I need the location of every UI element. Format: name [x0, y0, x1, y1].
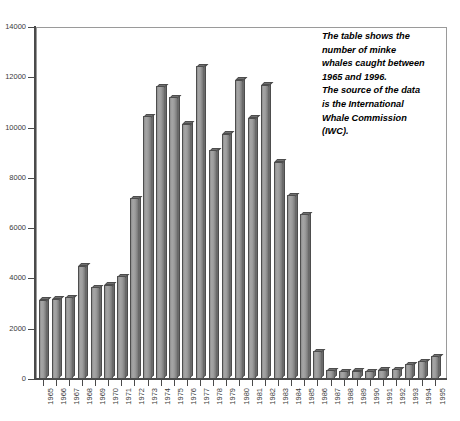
bar	[156, 86, 165, 379]
bar	[91, 287, 100, 379]
x-axis-label: 1979	[229, 388, 237, 405]
x-axis-label: 1971	[125, 388, 133, 405]
x-axis-tick	[252, 379, 253, 386]
bar-slot	[168, 27, 181, 379]
x-axis-label: 1976	[190, 388, 198, 405]
x-axis-label: 1980	[243, 388, 251, 405]
bar-slot	[142, 27, 155, 379]
x-axis-tick	[357, 379, 358, 386]
bar	[169, 97, 178, 379]
minke-whale-catch-bar-chart: 02000400060008000100001200014000 1965196…	[0, 0, 460, 421]
x-axis-label: 1986	[321, 388, 329, 405]
x-axis-label: 1967	[73, 388, 81, 405]
x-axis-tick	[383, 379, 384, 386]
y-axis-tick	[28, 278, 35, 279]
x-axis-label: 1978	[216, 388, 224, 405]
bar	[130, 198, 139, 379]
bar	[235, 80, 244, 379]
x-axis-label: 1981	[256, 388, 264, 405]
annotation-line: The source of the data	[322, 84, 450, 98]
x-axis-label: 1974	[164, 388, 172, 405]
bar-slot	[194, 27, 207, 379]
x-axis-tick	[69, 379, 70, 386]
bar	[222, 134, 231, 379]
annotation-line: is the International	[322, 98, 450, 112]
x-axis-label: 1983	[282, 388, 290, 405]
bar	[300, 214, 309, 379]
bar	[339, 371, 348, 379]
annotation-line: Whale Commission	[322, 112, 450, 126]
bar-slot	[129, 27, 142, 379]
x-axis-tick	[422, 379, 423, 386]
bar-slot	[64, 27, 77, 379]
chart-annotation-text: The table shows thenumber of minkewhales…	[322, 30, 450, 139]
x-axis-label: 1993	[412, 388, 420, 405]
bar	[104, 285, 113, 379]
bar-slot	[51, 27, 64, 379]
x-axis-label: 1989	[360, 388, 368, 405]
annotation-line: whales caught between	[322, 57, 450, 71]
annotation-line: number of minke	[322, 44, 450, 58]
bar-slot	[155, 27, 168, 379]
x-axis-tick	[278, 379, 279, 386]
x-axis-tick	[396, 379, 397, 386]
y-axis-tick	[28, 178, 35, 179]
x-axis-label: 1975	[177, 388, 185, 405]
x-axis-tick	[148, 379, 149, 386]
x-axis-tick	[239, 379, 240, 386]
bar	[365, 371, 374, 379]
bar-slot	[90, 27, 103, 379]
y-axis-tick	[28, 77, 35, 78]
bar	[405, 364, 414, 379]
bar-slot	[247, 27, 260, 379]
x-axis-tick	[56, 379, 57, 386]
bar	[378, 370, 387, 379]
x-axis-label: 1972	[138, 388, 146, 405]
x-axis-tick	[82, 379, 83, 386]
x-axis-tick	[226, 379, 227, 386]
x-axis-label: 1985	[308, 388, 316, 405]
x-axis-tick	[409, 379, 410, 386]
bar-slot	[207, 27, 220, 379]
bar-slot	[260, 27, 273, 379]
x-axis-label: 1995	[439, 388, 447, 405]
bar-slot	[273, 27, 286, 379]
bar	[352, 371, 361, 379]
bar	[78, 266, 87, 379]
x-axis-tick	[370, 379, 371, 386]
bar-slot	[286, 27, 299, 379]
bar	[196, 66, 205, 379]
x-axis-tick	[265, 379, 266, 386]
x-axis-label: 1977	[203, 388, 211, 405]
y-axis-label: 4000	[0, 274, 26, 282]
y-axis-label: 2000	[0, 325, 26, 333]
x-axis-label: 1990	[373, 388, 381, 405]
bar	[392, 369, 401, 379]
x-axis-tick	[95, 379, 96, 386]
x-axis-label: 1970	[112, 388, 120, 405]
x-axis-tick	[344, 379, 345, 386]
bar-slot	[181, 27, 194, 379]
bar-slot	[234, 27, 247, 379]
bar	[52, 299, 61, 379]
bar-slot	[116, 27, 129, 379]
x-axis-label: 1991	[386, 388, 394, 405]
x-axis-label: 1994	[425, 388, 433, 405]
x-axis-tick	[317, 379, 318, 386]
bar-slot	[299, 27, 312, 379]
bar	[287, 195, 296, 379]
annotation-line: (IWC).	[322, 125, 450, 139]
y-axis-label: 12000	[0, 73, 26, 81]
bar	[274, 162, 283, 379]
x-axis-label: 1968	[86, 388, 94, 405]
x-axis-tick	[161, 379, 162, 386]
bar	[261, 85, 270, 379]
y-axis-tick	[28, 228, 35, 229]
x-axis-label: 1987	[334, 388, 342, 405]
y-axis-label: 0	[0, 375, 26, 383]
bar	[313, 351, 322, 379]
x-axis-tick	[187, 379, 188, 386]
bar	[65, 297, 74, 379]
x-axis-tick	[108, 379, 109, 386]
bar-slot	[38, 27, 51, 379]
